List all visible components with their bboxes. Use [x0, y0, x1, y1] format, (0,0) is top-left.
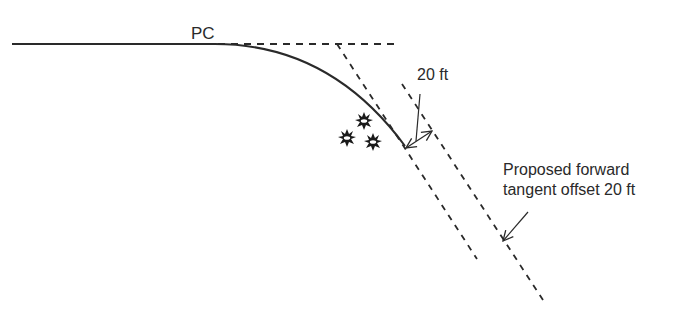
pc-label: PC [191, 24, 215, 43]
offset-distance-label: 20 ft [417, 65, 448, 84]
offset-dimension-arrow [406, 131, 432, 148]
alignment-diagram [0, 0, 685, 317]
proposed-tangent-label: Proposed forward tangent offset 20 ft [503, 160, 635, 200]
proposed-label-line-2: tangent offset 20 ft [503, 180, 635, 200]
original-forward-tangent [337, 44, 477, 259]
obstruction-icon [364, 133, 382, 151]
horizontal-curve [215, 44, 405, 146]
obstruction-icon [338, 129, 356, 147]
proposed-label-line-1: Proposed forward [503, 160, 635, 180]
obstruction-icon [355, 112, 373, 130]
offset-label-leader [416, 94, 420, 141]
proposed-label-leader-arrow [503, 212, 528, 241]
